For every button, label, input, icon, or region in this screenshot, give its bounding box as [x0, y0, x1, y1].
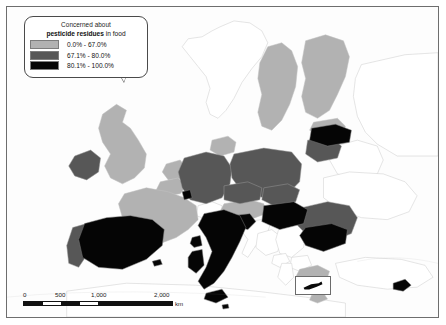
scale-unit-label: km: [175, 300, 183, 307]
legend-label-low: 0.0% - 67.0%: [67, 40, 107, 49]
scale-bar-row: km: [23, 300, 183, 307]
country-luxembourg: [182, 190, 192, 200]
legend-swatch-low: [30, 40, 59, 49]
legend-label-medium: 67.1% - 80.0%: [67, 51, 110, 60]
legend-item-low[interactable]: 0.0% - 67.0%: [30, 40, 142, 49]
legend-item-medium[interactable]: 67.1% - 80.0%: [30, 51, 142, 60]
scale-segment-1: [24, 302, 43, 305]
scale-bar-segments: [23, 301, 173, 306]
scale-segment-2: [43, 302, 62, 305]
inset-locator-box: [295, 276, 331, 295]
scale-tick-0: 0: [23, 291, 26, 299]
country-malta: [222, 304, 229, 309]
inset-cyprus-svg: [296, 277, 330, 294]
legend-label-high: 80.1% - 100.0%: [67, 61, 114, 70]
scale-bar: 0 500 1,000 2,000 km: [23, 291, 183, 307]
scale-segment-3: [61, 302, 80, 305]
legend-title: Concerned about: [30, 21, 142, 29]
country-czech-republic: [224, 182, 262, 204]
map-frame: .cl { fill:#b2b2b2; stroke:#c2c2c2; stro…: [6, 6, 439, 318]
legend-subtitle-rest: in food: [104, 30, 126, 37]
scale-tick-labels: 0 500 1,000 2,000: [23, 291, 175, 300]
scale-segment-4: [80, 302, 99, 305]
legend-subtitle: pesticide residues in food: [30, 29, 142, 38]
scale-tick-500: 500: [55, 291, 65, 299]
scale-tick-2000: 2,000: [154, 291, 169, 299]
map-legend: Concerned about pesticide residues in fo…: [24, 16, 148, 78]
legend-swatch-high: [30, 61, 59, 70]
map-figure: .cl { fill:#b2b2b2; stroke:#c2c2c2; stro…: [0, 0, 446, 325]
legend-item-high[interactable]: 80.1% - 100.0%: [30, 61, 142, 70]
legend-subtitle-bold: pesticide residues: [46, 30, 104, 37]
legend-swatch-medium: [30, 51, 59, 60]
scale-tick-1000: 1,000: [91, 291, 106, 299]
scale-segment-5: [98, 302, 172, 305]
